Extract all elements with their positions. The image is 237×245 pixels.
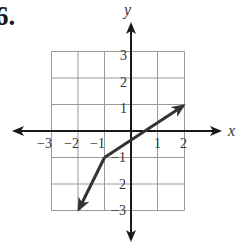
y-tick-1: 1 (120, 101, 127, 116)
y-tick--3: −3 (111, 203, 126, 218)
x-tick-2: 2 (180, 136, 187, 151)
y-tick--2: 2 (119, 177, 126, 192)
x-tick--2: −2 (64, 136, 79, 151)
plotted-line (79, 158, 105, 210)
y-tick--1: −1 (111, 150, 126, 165)
x-tick-1: 1 (154, 136, 161, 151)
x-tick--1: −1 (90, 136, 105, 151)
x-tick--3: −3 (37, 136, 52, 151)
y-tick-2: 2 (120, 75, 127, 90)
coordinate-plane: x y −3 −2 −1 1 2 3 2 1 −1 2 −3 (0, 0, 237, 245)
x-axis-label: x (227, 122, 235, 139)
y-tick-3: 3 (120, 48, 127, 63)
y-axis-label: y (122, 1, 132, 19)
